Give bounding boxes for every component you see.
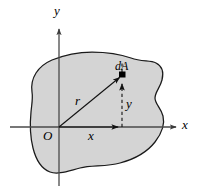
x-distance-label: x <box>88 129 94 142</box>
radius-label: r <box>75 94 80 107</box>
figure-container: y x O r x y dA <box>0 0 198 196</box>
y-distance-label: y <box>126 97 132 110</box>
plane-region-shape <box>30 52 163 173</box>
y-axis-label: y <box>54 4 60 17</box>
origin-label: O <box>43 129 52 142</box>
x-axis-label: x <box>182 118 188 131</box>
area-element-diagram <box>0 0 198 196</box>
area-element-label: dA <box>115 60 128 72</box>
